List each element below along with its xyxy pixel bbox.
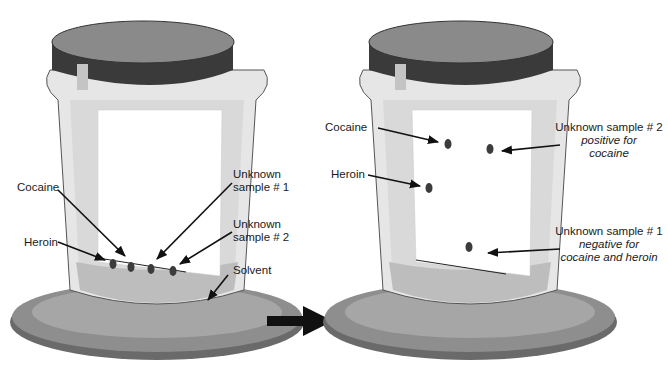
label-unknown2-left: Unknown sample # 2 (233, 218, 289, 244)
label-unknown1-left: Unknown sample # 1 (233, 168, 289, 194)
tlc-plate-left (98, 110, 222, 276)
spot-unknown1 (148, 264, 155, 274)
label-cocaine-left: Cocaine (17, 181, 59, 194)
spot-heroin (426, 183, 433, 193)
spot-unknown2 (487, 144, 494, 154)
label-heroin-right: Heroin (331, 168, 365, 181)
right-jar (323, 21, 617, 360)
tlc-diagram: Cocaine Heroin Unknown sample # 1 Unknow… (0, 0, 668, 372)
spot-unknown2 (170, 266, 177, 276)
spot-cocaine (445, 139, 452, 149)
label-unknown2-right: Unknown sample # 2 positive for cocaine (554, 121, 664, 160)
spot-heroin (110, 259, 117, 269)
label-cocaine-right: Cocaine (325, 121, 367, 134)
spot-unknown1 (466, 242, 473, 252)
label-heroin-left: Heroin (24, 236, 58, 249)
spot-cocaine (128, 262, 135, 272)
label-unknown1-right: Unknown sample # 1 negative for cocaine … (554, 225, 664, 264)
label-solvent: Solvent (233, 264, 271, 277)
